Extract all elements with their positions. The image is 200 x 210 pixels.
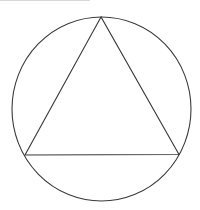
inscribed-triangle <box>25 17 179 155</box>
geometry-figure <box>0 0 200 210</box>
circumscribed-circle <box>12 17 191 201</box>
diagram-canvas <box>0 0 200 210</box>
